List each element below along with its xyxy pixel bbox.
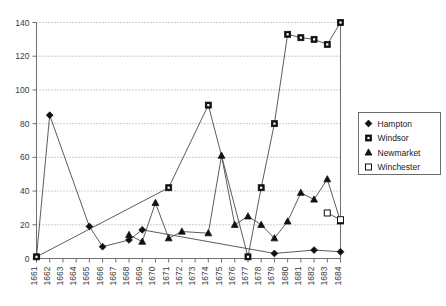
- data-point-windsor-inner: [300, 37, 302, 39]
- series-lines: [37, 23, 341, 257]
- legend-label-windsor: Windsor: [378, 133, 409, 143]
- data-point-windsor-inner: [35, 256, 37, 258]
- series-markers: [33, 20, 344, 261]
- data-point-windsor-inner: [207, 104, 209, 106]
- x-tick-label: 1661: [29, 266, 39, 285]
- data-point-hampton: [337, 248, 344, 255]
- series-line-windsor: [37, 23, 341, 257]
- data-point-newmarket: [218, 152, 225, 158]
- x-tick-labels: 1661166216631664166516661667166816691670…: [29, 266, 343, 285]
- x-tick-label: 1671: [161, 266, 171, 285]
- x-tick-label: 1675: [214, 266, 224, 285]
- x-tick-label: 1665: [81, 266, 91, 285]
- data-point-winchester: [338, 217, 344, 223]
- x-tick-label: 1683: [319, 266, 329, 285]
- data-point-newmarket: [231, 221, 238, 227]
- x-tick-label: 1670: [147, 266, 157, 285]
- legend: HamptonWindsorNewmarketWinchester: [359, 113, 441, 175]
- series-line-newmarket: [129, 156, 340, 242]
- x-tick-label: 1682: [306, 266, 316, 285]
- data-point-newmarket: [297, 189, 304, 195]
- data-point-windsor-inner: [247, 256, 249, 258]
- x-tick-label: 1672: [174, 266, 184, 285]
- y-axis: [33, 23, 37, 259]
- y-tick-label: 60: [20, 152, 30, 162]
- chart-container: 020406080100120140 166116621663166416651…: [0, 0, 446, 306]
- data-point-windsor-inner: [273, 123, 275, 125]
- y-tick-labels: 020406080100120140: [15, 18, 29, 264]
- x-tick-label: 1684: [333, 266, 343, 285]
- data-point-newmarket: [139, 238, 146, 244]
- data-point-newmarket: [258, 221, 265, 227]
- y-tick-label: 80: [20, 119, 30, 129]
- data-point-newmarket: [324, 176, 331, 182]
- data-point-windsor-inner: [260, 187, 262, 189]
- x-tick-label: 1668: [121, 266, 131, 285]
- legend-label-winchester: Winchester: [378, 162, 421, 172]
- x-tick-label: 1662: [42, 266, 52, 285]
- y-tick-label: 0: [25, 254, 30, 264]
- y-tick-label: 100: [15, 85, 29, 95]
- data-point-windsor-inner: [287, 33, 289, 35]
- legend-label-newmarket: Newmarket: [378, 148, 422, 158]
- x-tick-label: 1681: [293, 266, 303, 285]
- x-tick-label: 1679: [266, 266, 276, 285]
- data-point-hampton: [86, 223, 93, 230]
- data-point-windsor-inner: [313, 38, 315, 40]
- data-point-newmarket: [165, 235, 172, 241]
- x-tick-label: 1673: [187, 266, 197, 285]
- data-point-newmarket: [178, 228, 185, 234]
- x-tick-label: 1664: [68, 266, 78, 285]
- series-line-hampton: [37, 115, 341, 257]
- data-point-newmarket: [152, 199, 159, 205]
- x-tick-label: 1677: [240, 266, 250, 285]
- x-tick-label: 1666: [95, 266, 105, 285]
- data-point-newmarket: [245, 213, 252, 219]
- data-point-hampton: [311, 247, 318, 254]
- data-point-hampton: [99, 243, 106, 250]
- y-tick-label: 20: [20, 220, 30, 230]
- data-point-winchester: [324, 210, 330, 216]
- x-tick-label: 1663: [55, 266, 65, 285]
- gridlines: [37, 23, 341, 225]
- x-tick-label: 1676: [227, 266, 237, 285]
- x-tick-label: 1674: [200, 266, 210, 285]
- line-chart: 020406080100120140 166116621663166416651…: [0, 0, 446, 306]
- x-axis: [37, 23, 341, 263]
- x-tick-label: 1680: [280, 266, 290, 285]
- y-tick-label: 40: [20, 186, 30, 196]
- data-point-windsor-inner: [168, 187, 170, 189]
- data-point-hampton: [271, 250, 278, 257]
- legend-marker-windsor-inner: [367, 137, 369, 139]
- data-point-newmarket: [311, 196, 318, 202]
- data-point-windsor-inner: [339, 21, 341, 23]
- x-tick-label: 1669: [134, 266, 144, 285]
- data-point-windsor-inner: [326, 43, 328, 45]
- y-tick-label: 120: [15, 51, 29, 61]
- legend-label-hampton: Hampton: [378, 119, 413, 129]
- data-point-hampton: [46, 112, 53, 119]
- x-tick-label: 1667: [108, 266, 118, 285]
- x-tick-label: 1678: [253, 266, 263, 285]
- data-point-newmarket: [126, 231, 133, 237]
- y-tick-label: 140: [15, 18, 29, 28]
- data-point-newmarket: [284, 218, 291, 224]
- legend-marker-winchester: [366, 164, 372, 170]
